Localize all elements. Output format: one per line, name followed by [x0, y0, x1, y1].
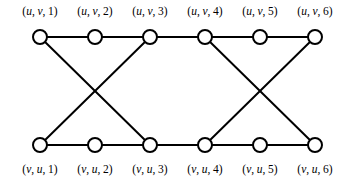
node-label-4: (u, v, 4)	[187, 5, 223, 17]
graph-node[interactable]	[88, 138, 102, 152]
node-label-2: (u, v, 2)	[77, 5, 113, 17]
graph-figure: (u, v, 1)(u, v, 2)(u, v, 3)(u, v, 4)(u, …	[0, 0, 353, 188]
node-label-1: (v, u, 1)	[22, 163, 58, 175]
node-layer	[33, 30, 322, 152]
node-label-2: (v, u, 2)	[77, 163, 113, 175]
node-label-3: (v, u, 3)	[132, 163, 168, 175]
graph-node[interactable]	[33, 30, 47, 44]
node-label-5: (u, v, 5)	[242, 5, 278, 17]
node-label-6: (u, v, 6)	[297, 5, 333, 17]
node-label-3: (u, v, 3)	[132, 5, 168, 17]
node-label-4: (v, u, 4)	[187, 163, 223, 175]
node-label-5: (v, u, 5)	[242, 163, 278, 175]
graph-node[interactable]	[308, 138, 322, 152]
graph-node[interactable]	[143, 138, 157, 152]
graph-node[interactable]	[253, 30, 267, 44]
graph-node[interactable]	[88, 30, 102, 44]
graph-node[interactable]	[33, 138, 47, 152]
graph-node[interactable]	[198, 138, 212, 152]
graph-node[interactable]	[143, 30, 157, 44]
node-label-6: (v, u, 6)	[297, 163, 333, 175]
node-label-1: (u, v, 1)	[22, 5, 58, 17]
edge-layer	[40, 37, 315, 145]
graph-canvas	[0, 0, 353, 188]
graph-node[interactable]	[253, 138, 267, 152]
graph-node[interactable]	[198, 30, 212, 44]
graph-node[interactable]	[308, 30, 322, 44]
